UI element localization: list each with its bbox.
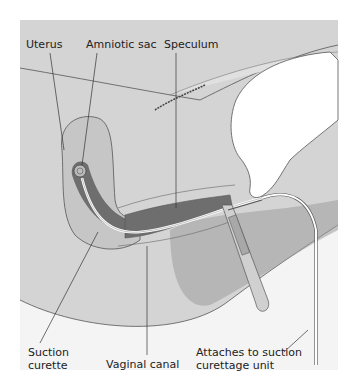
label-uterus: Uterus [26, 39, 62, 51]
label-suction-curette-2: curette [28, 360, 67, 372]
label-attaches-2: curettage unit [196, 360, 274, 372]
label-suction-curette-1: Suction [28, 347, 69, 359]
label-vaginal-canal: Vaginal canal [106, 359, 179, 371]
label-amniotic-sac: Amniotic sac [86, 39, 156, 51]
label-attaches-1: Attaches to suction [196, 347, 302, 359]
label-speculum: Speculum [164, 39, 219, 51]
procedure-illustration [0, 0, 354, 390]
